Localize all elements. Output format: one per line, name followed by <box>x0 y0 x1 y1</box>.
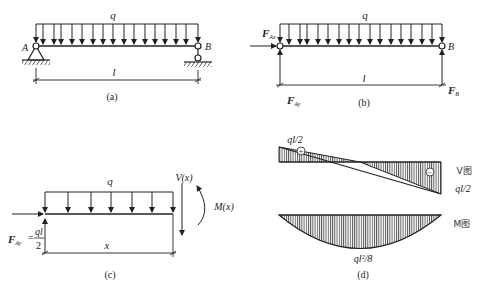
support-label-a: A <box>21 42 29 53</box>
panel-a-simply-supported-beam: q A B l (a) <box>21 9 212 103</box>
caption-d: (d) <box>357 269 369 281</box>
distributed-load-b <box>280 24 442 44</box>
support-label-b: B <box>205 41 211 52</box>
distributed-load-c <box>45 192 173 212</box>
shear-diagram-label: V图 <box>456 166 471 176</box>
panel-c-section-cut: q FAy = ql 2 V(x) M(x) x (c) <box>7 172 234 281</box>
reaction-label-ay: FAy <box>286 94 301 107</box>
shear-force-diagram: + − <box>279 147 441 194</box>
svg-text:=: = <box>28 232 34 243</box>
reaction-label-ax: FAx <box>261 27 276 40</box>
caption-a: (a) <box>106 91 117 103</box>
dimension-line-b <box>276 83 446 87</box>
length-label-x: x <box>104 239 110 251</box>
span-label-b: l <box>362 72 365 84</box>
distributed-load-a <box>36 24 198 44</box>
reaction-label-ay-c: FAy = ql 2 <box>7 226 44 251</box>
pin-right-b <box>439 43 445 49</box>
svg-text:+: + <box>299 147 304 156</box>
shear-label-c: V(x) <box>175 172 193 184</box>
svg-text:−: − <box>428 168 433 177</box>
shear-max-label: ql/2 <box>287 134 303 145</box>
svg-text:FAy: FAy <box>7 233 22 246</box>
point-label-b: B <box>448 41 454 52</box>
moment-arrow-c <box>197 186 205 225</box>
svg-text:2: 2 <box>36 240 41 251</box>
panel-d-internal-force-diagrams: + − ql/2 ql/2 V图 M图 ql²/8 (d) <box>279 134 472 281</box>
moment-label-c: M(x) <box>213 201 234 213</box>
caption-b: (b) <box>358 97 370 109</box>
reaction-label-b: FB <box>447 84 459 97</box>
load-label-q-a: q <box>110 9 116 21</box>
moment-diagram-label: M图 <box>454 219 471 229</box>
bending-moment-diagram <box>279 215 441 249</box>
dimension-line-a <box>33 68 201 84</box>
span-label-a: l <box>112 66 115 78</box>
panel-b-free-body-diagram: q FAx FAy FB B l (b) <box>250 9 459 109</box>
load-label-q-c: q <box>107 175 113 187</box>
shear-min-label: ql/2 <box>455 183 471 194</box>
beam-analysis-figure: q A B l (a) <box>0 0 484 293</box>
load-label-q-b: q <box>362 9 368 21</box>
caption-c: (c) <box>104 269 115 281</box>
moment-max-label: ql²/8 <box>354 253 373 264</box>
svg-text:ql: ql <box>35 226 43 237</box>
pin-left-b <box>277 43 283 49</box>
